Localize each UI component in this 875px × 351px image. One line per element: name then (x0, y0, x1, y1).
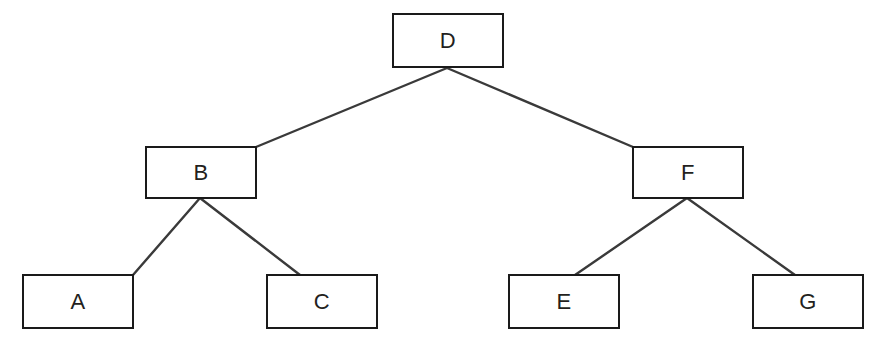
tree-node-c[interactable]: C (266, 274, 378, 329)
tree-node-a[interactable]: A (22, 274, 134, 329)
edge-b-a (133, 198, 200, 275)
edge-b-c (200, 198, 300, 275)
node-label-a: A (70, 291, 85, 313)
node-label-b: B (193, 162, 208, 184)
tree-node-b[interactable]: B (145, 146, 257, 199)
edge-d-b (256, 68, 447, 147)
tree-node-d[interactable]: D (392, 13, 504, 68)
binary-tree-diagram: D B F A C E G (0, 0, 875, 351)
tree-node-e[interactable]: E (508, 274, 620, 329)
edge-f-g (687, 198, 795, 275)
node-label-d: D (440, 30, 456, 52)
node-label-e: E (556, 291, 571, 313)
edge-d-f (447, 68, 633, 147)
tree-node-g[interactable]: G (752, 274, 864, 329)
tree-node-f[interactable]: F (632, 146, 744, 199)
node-label-c: C (314, 291, 330, 313)
node-label-f: F (681, 162, 695, 184)
edge-f-e (575, 198, 687, 275)
node-label-g: G (799, 291, 817, 313)
